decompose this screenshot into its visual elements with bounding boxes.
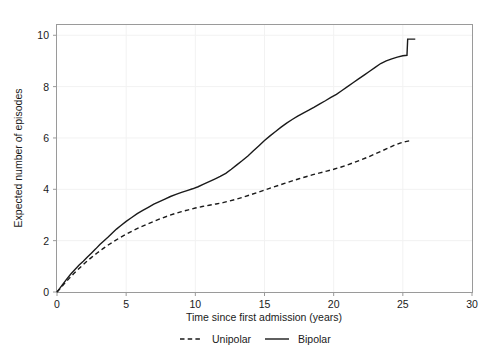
x-tick-label: 0 <box>54 298 60 310</box>
x-tick-label: 15 <box>259 298 271 310</box>
y-tick-label: 2 <box>43 235 49 247</box>
y-tick-label: 8 <box>43 81 49 93</box>
y-axis-title: Expected number of episodes <box>12 89 24 228</box>
y-tick-label: 0 <box>43 286 49 298</box>
x-tick-label: 20 <box>328 298 340 310</box>
y-tick-label: 10 <box>37 29 49 41</box>
x-tick-label: 5 <box>123 298 129 310</box>
legend-label-bipolar: Bipolar <box>298 333 331 345</box>
x-tick-label: 25 <box>397 298 409 310</box>
figure-container: 051015202530 0246810 Time since first ad… <box>0 0 496 358</box>
x-axis-title: Time since first admission (years) <box>186 311 342 323</box>
x-tick-label: 30 <box>466 298 478 310</box>
line-chart: 051015202530 0246810 Time since first ad… <box>0 0 496 358</box>
chart-background <box>0 0 496 358</box>
y-tick-label: 4 <box>43 183 49 195</box>
y-tick-label: 6 <box>43 132 49 144</box>
x-tick-label: 10 <box>189 298 201 310</box>
legend-label-unipolar: Unipolar <box>212 333 252 345</box>
